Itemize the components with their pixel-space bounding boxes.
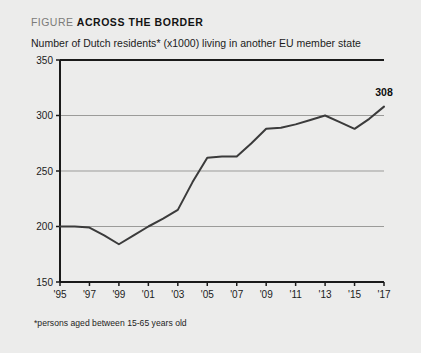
y-tick-label-350: 350: [36, 55, 53, 66]
x-tick-label-2001: '01: [142, 289, 155, 300]
x-tick-label-2013: '13: [319, 289, 332, 300]
x-tick-label-2005: '05: [201, 289, 214, 300]
figure-kicker: FIGURE: [31, 16, 73, 28]
x-tick-label-1997: '97: [83, 289, 96, 300]
x-tick-label-1995: '95: [53, 289, 66, 300]
line-chart-svg: 150200250300350 '95'97'99'01'03'05'07'09…: [31, 54, 396, 310]
x-tick-label-2017: '17: [377, 289, 390, 300]
chart-footnote: *persons aged between 15-65 years old: [34, 318, 397, 328]
x-tick-label-2011: '11: [289, 289, 302, 300]
data-label-308: 308: [375, 86, 393, 98]
x-tick-label-2015: '15: [348, 289, 361, 300]
y-tick-label-250: 250: [36, 166, 53, 177]
figure-title: ACROSS THE BORDER: [77, 16, 204, 28]
y-tick-label-200: 200: [36, 221, 53, 232]
x-axis-ticks-group: '95'97'99'01'03'05'07'09'11'13'15'17: [53, 282, 390, 300]
figure-headline: FIGURE ACROSS THE BORDER: [31, 16, 397, 28]
data-series-line: [60, 107, 384, 245]
figure-container: FIGURE ACROSS THE BORDER Number of Dutch…: [0, 0, 421, 353]
chart-subtitle: Number of Dutch residents* (x1000) livin…: [31, 37, 397, 49]
y-tick-label-150: 150: [36, 277, 53, 288]
x-tick-label-2003: '03: [171, 289, 184, 300]
y-axis-ticks-group: 150200250300350: [36, 55, 53, 288]
chart-plot-area: 150200250300350 '95'97'99'01'03'05'07'09…: [31, 54, 396, 310]
gridlines-group: [56, 60, 384, 282]
data-annotations-group: 308: [375, 86, 393, 98]
x-tick-label-2009: '09: [260, 289, 273, 300]
y-tick-label-300: 300: [36, 110, 53, 121]
x-tick-label-1999: '99: [112, 289, 125, 300]
x-tick-label-2007: '07: [230, 289, 243, 300]
